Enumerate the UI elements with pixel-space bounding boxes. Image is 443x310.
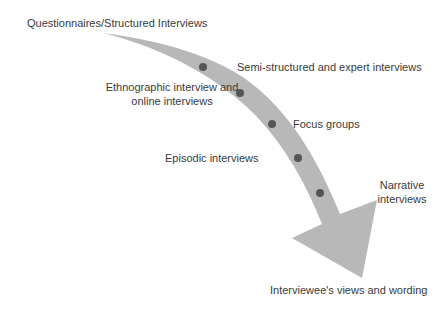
stage-dot-4 — [294, 154, 302, 162]
stage-dot-1 — [199, 63, 207, 71]
stage-dot-3 — [268, 120, 276, 128]
stage-label-narrative-line1: Narrative — [372, 178, 432, 192]
stage-label-semi-structured: Semi-structured and expert interviews — [237, 60, 422, 74]
stage-dot-5 — [316, 189, 324, 197]
stage-label-focus-groups: Focus groups — [293, 117, 360, 131]
end-label: Interviewee's views and wording — [270, 283, 427, 297]
stage-label-ethnographic-line2: online interviews — [92, 94, 252, 108]
stage-label-episodic: Episodic interviews — [165, 151, 259, 165]
stage-label-ethnographic: Ethnographic interview and online interv… — [92, 80, 252, 108]
stage-label-narrative-line2: interviews — [372, 192, 432, 206]
stage-label-narrative: Narrative interviews — [372, 178, 432, 206]
start-label: Questionnaires/Structured Interviews — [27, 16, 207, 30]
stage-label-ethnographic-line1: Ethnographic interview and — [92, 80, 252, 94]
